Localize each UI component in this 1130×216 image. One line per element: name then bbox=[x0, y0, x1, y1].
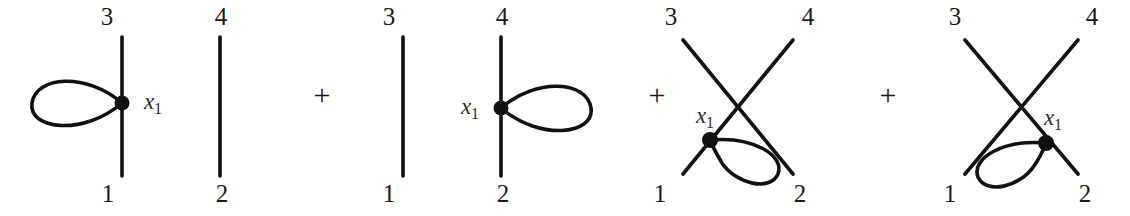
term-1-vertex-label: x1 bbox=[143, 89, 162, 116]
operator-plus-3: + bbox=[880, 78, 897, 111]
term-4-label-top-left: 3 bbox=[949, 3, 962, 30]
term-4-label-bottom-left: 1 bbox=[944, 180, 957, 207]
term-2-label-top-left: 3 bbox=[383, 3, 396, 30]
term-4-label-bottom-right: 2 bbox=[1079, 180, 1092, 207]
term-2-tadpole-loop bbox=[501, 86, 591, 130]
term-3: 3 1 4 2 x1 bbox=[654, 3, 815, 207]
term-2: 3 1 4 2 x1 bbox=[383, 3, 591, 207]
term-3-label-top-right: 4 bbox=[802, 3, 815, 30]
term-3-label-bottom-right: 2 bbox=[794, 180, 807, 207]
term-2-vertex-dot bbox=[494, 101, 509, 116]
term-2-label-top-right: 4 bbox=[496, 3, 509, 30]
operator-plus-1: + bbox=[314, 78, 331, 111]
feynman-diagram-figure: 3 1 4 2 x1 + 3 1 4 2 bbox=[0, 0, 1130, 216]
term-1-label-top-left: 3 bbox=[101, 3, 114, 30]
term-3-vertex-label: x1 bbox=[695, 103, 714, 130]
term-2-label-bottom-left: 1 bbox=[383, 180, 396, 207]
term-4: 3 1 4 2 x1 bbox=[944, 3, 1099, 207]
term-4-label-top-right: 4 bbox=[1086, 3, 1099, 30]
term-2-label-bottom-right: 2 bbox=[497, 180, 510, 207]
term-4-vertex-label: x1 bbox=[1043, 105, 1062, 132]
term-1-label-top-right: 4 bbox=[215, 3, 228, 30]
diagram-canvas: 3 1 4 2 x1 + 3 1 4 2 bbox=[0, 0, 1130, 216]
term-1-tadpole-loop bbox=[32, 81, 122, 125]
term-1: 3 1 4 2 x1 bbox=[32, 3, 228, 207]
term-3-label-top-left: 3 bbox=[665, 3, 678, 30]
term-2-vertex-label: x1 bbox=[460, 94, 479, 121]
term-3-vertex-dot bbox=[702, 132, 718, 148]
term-1-label-bottom-right: 2 bbox=[216, 180, 229, 207]
term-4-vertex-dot bbox=[1038, 135, 1054, 151]
term-1-label-bottom-left: 1 bbox=[102, 180, 115, 207]
operator-plus-2: + bbox=[649, 78, 666, 111]
term-3-label-bottom-left: 1 bbox=[654, 180, 667, 207]
term-1-vertex-dot bbox=[115, 96, 130, 111]
